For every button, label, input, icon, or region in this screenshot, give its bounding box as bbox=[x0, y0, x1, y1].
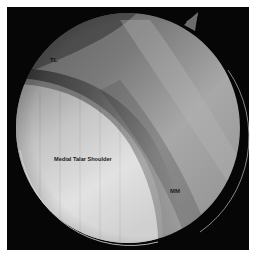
arthroscopic-view bbox=[0, 0, 254, 257]
label-medial-talar-shoulder: Medial Talar Shoulder bbox=[54, 156, 112, 162]
label-tl: TL bbox=[50, 57, 57, 63]
label-mm: MM bbox=[170, 188, 180, 194]
scope-notch-marker bbox=[184, 12, 198, 31]
